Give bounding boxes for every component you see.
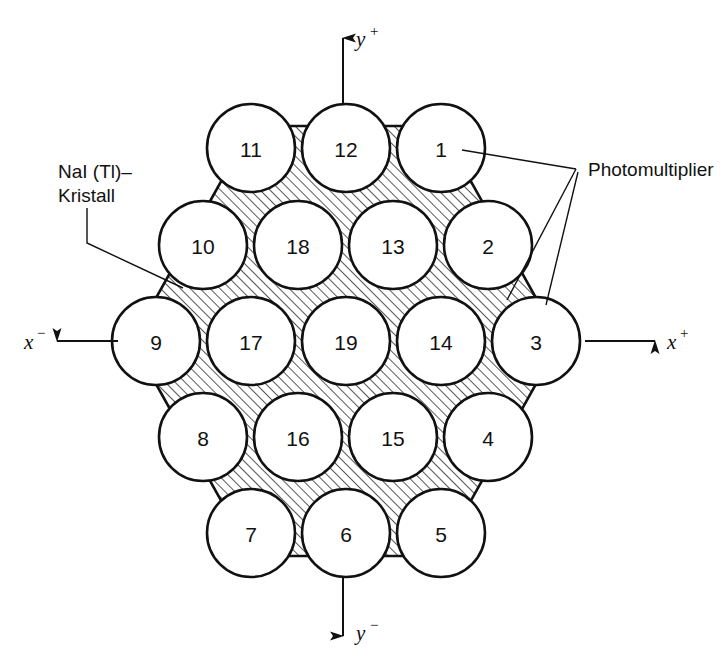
axis-label-y-negative: y: [354, 621, 366, 645]
photomultiplier-tube[interactable]: 10: [159, 201, 247, 289]
crystal-label-line1: NaI (Tl)–: [58, 161, 132, 182]
photomultiplier-number: 8: [197, 427, 209, 450]
photomultiplier-number: 3: [530, 331, 542, 354]
photomultiplier-number: 17: [239, 331, 262, 354]
crystal-label-line2: Kristall: [58, 185, 115, 206]
photomultiplier-tube[interactable]: 6: [302, 489, 390, 577]
axis-label-x-positive: x: [666, 330, 677, 354]
photomultiplier-number: 7: [245, 523, 257, 546]
photomultiplier-tube[interactable]: 3: [492, 297, 580, 385]
photomultiplier-tube[interactable]: 7: [207, 489, 295, 577]
pmt-leader-line-lower: [546, 172, 578, 305]
photomultiplier-number: 19: [334, 331, 357, 354]
photomultiplier-tube[interactable]: 12: [302, 104, 390, 192]
photomultiplier-number: 18: [286, 235, 309, 258]
photomultiplier-tube[interactable]: 15: [349, 393, 437, 481]
photomultiplier-tube[interactable]: 5: [397, 489, 485, 577]
photomultiplier-number: 4: [482, 427, 494, 450]
photomultiplier-tube[interactable]: 13: [349, 201, 437, 289]
photomultiplier-tube[interactable]: 9: [112, 297, 200, 385]
photomultiplier-tube[interactable]: 11: [207, 104, 295, 192]
photomultiplier-label: Photomultiplier: [588, 159, 714, 180]
photomultiplier-number: 5: [435, 523, 447, 546]
photomultiplier-number: 6: [340, 523, 352, 546]
photomultiplier-tube[interactable]: 16: [254, 393, 342, 481]
photomultiplier-tube[interactable]: 17: [207, 297, 295, 385]
photomultiplier-number: 10: [191, 235, 214, 258]
photomultiplier-tube[interactable]: 14: [397, 297, 485, 385]
photomultiplier-number: 13: [381, 235, 404, 258]
photomultiplier-array: 11121101813291719143816154765: [112, 104, 580, 577]
photomultiplier-number: 11: [240, 138, 262, 161]
axis-label-x-negative: x: [23, 330, 34, 354]
photomultiplier-number: 14: [429, 331, 453, 354]
photomultiplier-tube[interactable]: 8: [159, 393, 247, 481]
photomultiplier-tube[interactable]: 18: [254, 201, 342, 289]
axis-sign-x-positive: +: [680, 325, 688, 341]
photomultiplier-tube[interactable]: 2: [444, 201, 532, 289]
photomultiplier-number: 16: [286, 427, 309, 450]
axis-sign-y-negative: −: [370, 617, 378, 633]
photomultiplier-number: 9: [150, 331, 162, 354]
axis-sign-y-positive: +: [370, 23, 378, 39]
photomultiplier-number: 12: [334, 138, 357, 161]
scintillation-camera-diagram: 11121101813291719143816154765 y + y − x …: [0, 0, 724, 670]
photomultiplier-number: 15: [381, 427, 404, 450]
photomultiplier-number: 2: [482, 235, 494, 258]
axis-label-y-positive: y: [354, 27, 366, 51]
axis-sign-x-negative: −: [37, 325, 45, 341]
photomultiplier-tube[interactable]: 1: [397, 104, 485, 192]
photomultiplier-number: 1: [435, 138, 447, 161]
figure-canvas: 11121101813291719143816154765 y + y − x …: [0, 0, 724, 670]
photomultiplier-tube[interactable]: 4: [444, 393, 532, 481]
photomultiplier-tube[interactable]: 19: [302, 297, 390, 385]
